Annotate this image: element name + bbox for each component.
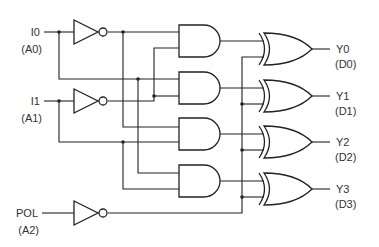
output-alias-d3: (D3)	[335, 198, 356, 210]
and-gate-3	[179, 165, 220, 197]
inverter-i0	[74, 20, 107, 44]
logic-circuit-diagram: I0 (A0) I1 (A1) POL (A2) Y0 (D0) Y1 (D1)…	[0, 0, 379, 247]
input-alias-a2: (A2)	[18, 224, 39, 236]
xor-gate-0	[259, 33, 312, 65]
output-label-y0: Y0	[336, 43, 349, 55]
input-label-i1: I1	[31, 95, 40, 107]
input-alias-a1: (A1)	[21, 112, 42, 124]
and-gate-1	[179, 72, 220, 104]
input-label-i0: I0	[31, 26, 40, 38]
output-alias-d2: (D2)	[335, 151, 356, 163]
inverter-i1	[74, 89, 107, 113]
xor-gate-1	[259, 80, 312, 112]
and-gate-0	[179, 25, 220, 57]
inverter-pol	[74, 201, 107, 225]
output-label-y3: Y3	[336, 183, 349, 195]
output-alias-d0: (D0)	[335, 58, 356, 70]
and-gate-2	[179, 118, 220, 150]
xor-gate-3	[259, 173, 312, 205]
output-alias-d1: (D1)	[335, 105, 356, 117]
output-label-y2: Y2	[336, 136, 349, 148]
input-alias-a0: (A0)	[21, 43, 42, 55]
output-label-y1: Y1	[336, 90, 349, 102]
xor-gate-2	[259, 126, 312, 158]
input-label-pol: POL	[16, 207, 38, 219]
